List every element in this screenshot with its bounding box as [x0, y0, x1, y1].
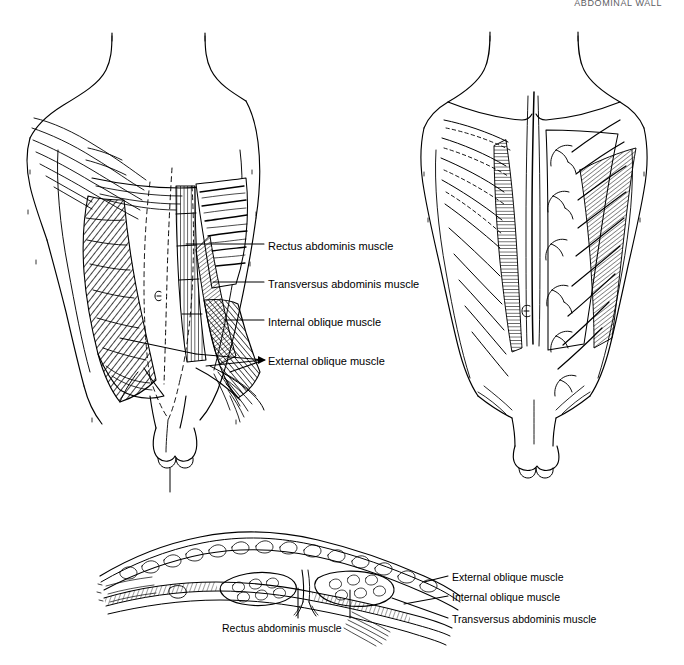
- label-internal-oblique-cross-section: Internal oblique muscle: [452, 591, 560, 603]
- label-external-oblique-anterior: External oblique muscle: [268, 355, 385, 367]
- label-rectus-abdominis-anterior: Rectus abdominis muscle: [268, 240, 393, 252]
- anatomy-illustration: [0, 0, 684, 665]
- illustration-page: ABDOMINAL WALL: [0, 0, 684, 665]
- label-external-oblique-cross-section: External oblique muscle: [452, 571, 563, 583]
- label-rectus-abdominis-cross-section: Rectus abdominis muscle: [222, 622, 342, 634]
- label-transversus-abdominis-anterior: Transversus abdominis muscle: [268, 278, 419, 290]
- label-transversus-abdominis-cross-section: Transversus abdominis muscle: [452, 613, 596, 625]
- label-internal-oblique-anterior: Internal oblique muscle: [268, 316, 381, 328]
- leader-lines: [120, 244, 448, 618]
- anterior-figure: [27, 33, 264, 492]
- posterior-figure: [421, 32, 647, 478]
